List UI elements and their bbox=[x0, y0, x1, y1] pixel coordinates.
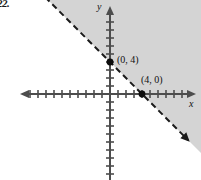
point-marker-x-intercept bbox=[139, 91, 146, 98]
point-marker-y-intercept bbox=[107, 59, 114, 66]
x-axis-label: x bbox=[189, 98, 193, 109]
problem-number-label: 22. bbox=[0, 0, 9, 9]
point-label-y-intercept: (0, 4) bbox=[117, 54, 139, 65]
y-axis-label: y bbox=[97, 1, 101, 12]
shaded-solution-region bbox=[0, 0, 201, 153]
inequality-graph-figure: 22. (0, 4) (4, 0) x y bbox=[0, 0, 201, 180]
point-label-x-intercept: (4, 0) bbox=[141, 74, 163, 85]
x-axis-arrow-left bbox=[20, 90, 29, 98]
coordinate-plane bbox=[0, 0, 201, 180]
